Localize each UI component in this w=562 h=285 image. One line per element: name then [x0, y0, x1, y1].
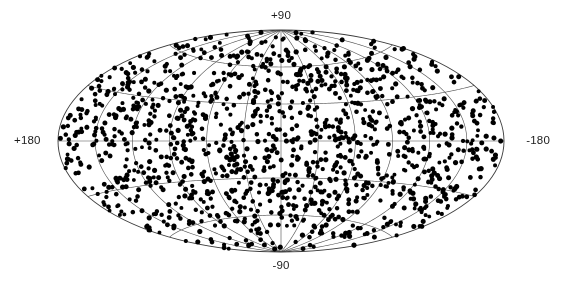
longitude-label-right-limb: -180 — [526, 134, 550, 147]
longitude-label-left-limb: +180 — [14, 134, 41, 147]
latitude-label-north-pole: +90 — [0, 9, 562, 22]
latitude-label-south-pole: -90 — [0, 259, 562, 272]
aitoff-projection-canvas — [0, 0, 562, 285]
all-sky-map-figure: +90 -90 +180 -180 — [0, 0, 562, 285]
